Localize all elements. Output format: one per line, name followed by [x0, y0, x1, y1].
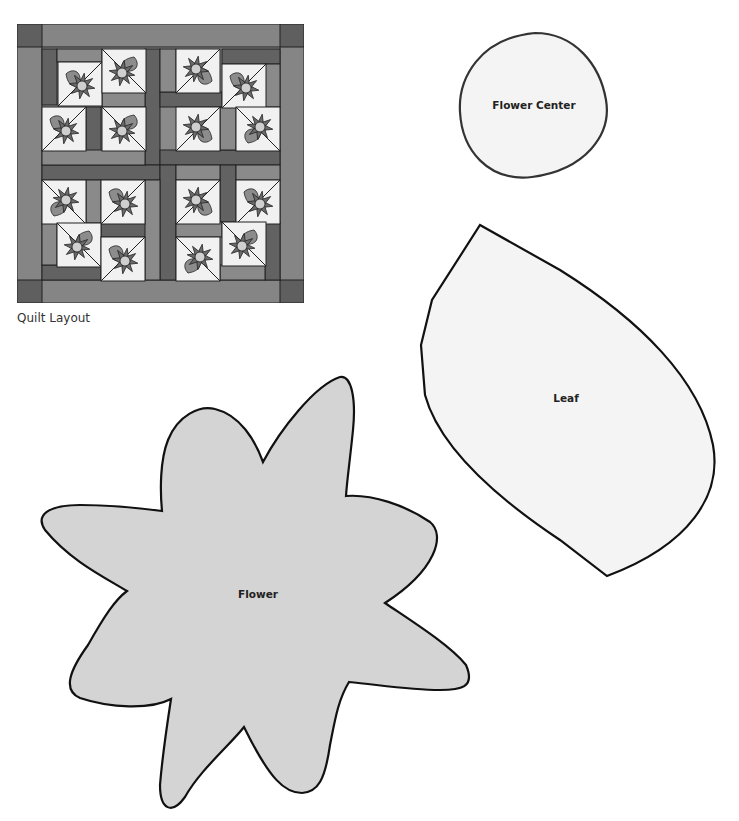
flower-center-template: Flower Center [460, 33, 607, 178]
template-shapes: Flower Center Leaf Flower [0, 0, 739, 821]
leaf-label: Leaf [553, 392, 579, 404]
leaf-template: Leaf [421, 225, 714, 576]
flower-center-label: Flower Center [492, 99, 576, 111]
flower-label: Flower [238, 588, 279, 600]
flower-template: Flower [42, 377, 469, 808]
